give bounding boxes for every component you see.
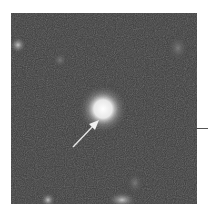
image-canvas (11, 13, 197, 204)
faint-source-bottom-right (125, 170, 145, 196)
faint-source-upper-middle (51, 51, 69, 69)
faint-source-upper-right (166, 33, 190, 63)
astronomical-image (11, 13, 197, 204)
pointer-line (197, 128, 208, 129)
central-bright-source (77, 83, 129, 135)
